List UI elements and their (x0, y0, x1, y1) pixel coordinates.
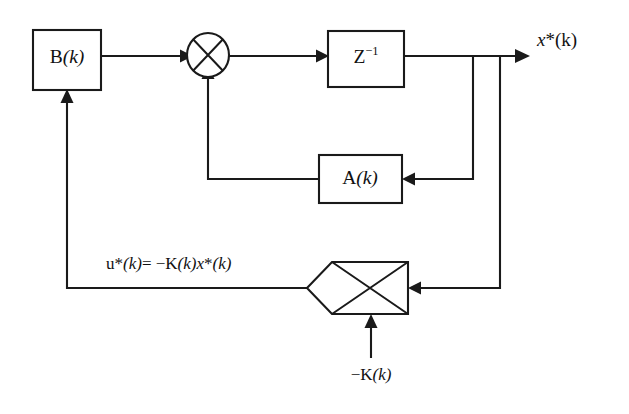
wire-a-to-sum (208, 79, 319, 179)
block-feedback-gain[interactable] (307, 262, 408, 314)
arrowhead-into-a-block (402, 173, 415, 186)
arrowhead-into-b-block (61, 89, 74, 103)
block-a-label: A(k) (342, 167, 378, 189)
block-delay[interactable] (328, 31, 404, 87)
wire-state-to-gain-block (421, 56, 500, 288)
output-signal-label: x*(k) (536, 29, 577, 51)
control-system-block-diagram: B(k) Z−1 A(k) x*(k) u*(k)= −K(k)x*(k) −K… (0, 0, 629, 414)
arrowhead-output (515, 49, 530, 63)
gain-input-label: −K(k) (351, 365, 392, 384)
arrowhead-k-into-gain (365, 314, 378, 328)
wire-state-to-a-block (415, 56, 473, 179)
block-diagram-canvas: B(k) Z−1 A(k) x*(k) u*(k)= −K(k)x*(k) −K… (0, 0, 629, 414)
control-law-label: u*(k)= −K(k)x*(k) (106, 254, 232, 273)
block-b-label: B(k) (50, 46, 85, 68)
arrowhead-into-gain-block (408, 282, 421, 295)
